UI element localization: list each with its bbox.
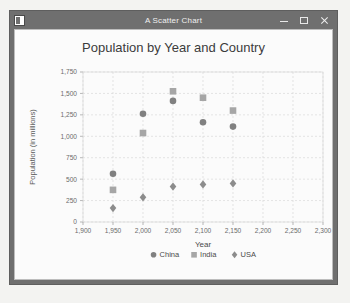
chart-legend: ChinaIndiaUSA — [151, 250, 256, 259]
data-point-china — [200, 119, 207, 126]
data-point-india — [110, 187, 117, 194]
y-tick-label: 1,000 — [60, 133, 77, 140]
data-point-india — [170, 88, 177, 95]
y-tick-label: 1,250 — [60, 111, 77, 118]
x-tick-label: 1,900 — [75, 227, 92, 234]
x-tick-label: 2,150 — [225, 227, 242, 234]
legend-marker-china — [151, 252, 157, 258]
window-titlebar[interactable]: A Scatter Chart — [10, 11, 337, 29]
minimize-icon[interactable] — [279, 15, 290, 26]
y-tick-label: 1,750 — [60, 68, 77, 75]
x-tick-label: 2,200 — [255, 227, 272, 234]
y-tick-label: 1,500 — [60, 90, 77, 97]
y-tick-label: 250 — [66, 197, 77, 204]
legend-label-china[interactable]: China — [160, 250, 180, 259]
y-tick-label: 500 — [66, 176, 77, 183]
window-controls — [279, 15, 334, 26]
x-tick-label: 2,300 — [315, 227, 332, 234]
maximize-icon[interactable] — [299, 15, 310, 26]
window-client-area: Population by Year and Country 025050075… — [14, 29, 333, 280]
data-point-china — [110, 170, 117, 177]
data-point-china — [170, 98, 177, 105]
app-icon — [14, 15, 25, 26]
scatter-chart: 02505007501,0001,2501,5001,7501,9001,950… — [15, 30, 332, 279]
x-axis-label: Year — [195, 240, 212, 249]
close-icon[interactable] — [319, 15, 330, 26]
x-tick-label: 2,250 — [285, 227, 302, 234]
y-axis-label: Population (in millions) — [28, 109, 37, 185]
legend-label-usa[interactable]: USA — [241, 250, 256, 259]
data-point-india — [200, 94, 207, 101]
data-point-china — [230, 123, 237, 130]
application-window: A Scatter Chart Population by Year and C… — [9, 10, 338, 285]
x-tick-label: 1,950 — [105, 227, 122, 234]
y-tick-label: 0 — [73, 218, 77, 225]
legend-marker-india — [191, 252, 197, 258]
data-point-china — [140, 110, 147, 117]
legend-marker-usa — [232, 251, 238, 258]
chart-canvas: 02505007501,0001,2501,5001,7501,9001,950… — [15, 30, 333, 280]
data-point-india — [230, 107, 237, 114]
x-tick-label: 2,000 — [135, 227, 152, 234]
legend-label-india[interactable]: India — [200, 250, 217, 259]
y-tick-label: 750 — [66, 154, 77, 161]
desktop-background: A Scatter Chart Population by Year and C… — [0, 0, 350, 303]
data-point-india — [140, 130, 147, 137]
x-tick-label: 2,100 — [195, 227, 212, 234]
x-tick-label: 2,050 — [165, 227, 182, 234]
